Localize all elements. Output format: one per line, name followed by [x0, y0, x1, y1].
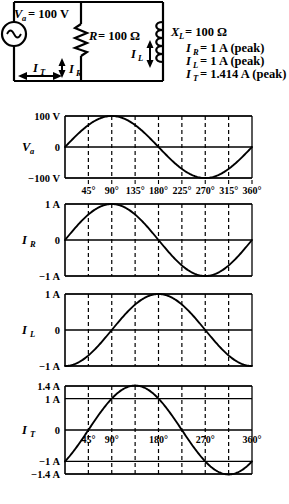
y-tick-label: 1 A: [45, 199, 60, 210]
plot-panel-i-r: 1 A0−1 AIR: [21, 199, 252, 282]
source-label-value: = 100 V: [28, 7, 69, 21]
x-tick-label: 45°: [81, 434, 95, 445]
legend-list: I R = 1 A (peak) I L = 1 A (peak) I T = …: [185, 41, 286, 83]
panel-y-label-var: I: [21, 233, 28, 247]
y-tick-label: −1 A: [39, 271, 60, 282]
panel-y-label-sub: a: [30, 146, 35, 156]
current-l-arrow: [147, 40, 154, 68]
panel-y-label-sub: R: [29, 239, 36, 249]
y-tick-label: −100 V: [28, 173, 60, 184]
current-total-label-var: I: [32, 61, 39, 75]
y-tick-label: −1 A: [39, 456, 60, 467]
ac-source-icon: [2, 22, 26, 46]
source-label: V a = 100 V: [14, 7, 69, 23]
x-tick-label: 360°: [243, 434, 262, 445]
current-total-label-sub: T: [40, 67, 46, 77]
legend-text: = 1 A (peak): [200, 41, 264, 55]
legend-text: = 1 A (peak): [200, 54, 264, 68]
y-tick-label: −1.4 A: [31, 469, 60, 480]
y-tick-label: 0: [55, 325, 60, 336]
inductor-label: X L = 100 Ω: [170, 25, 227, 41]
legend-text: = 1.414 A (peak): [200, 67, 286, 81]
legend-sub: R: [192, 47, 199, 57]
panel-y-label: IR: [21, 233, 36, 249]
circuit-diagram: V a = 100 V R = 100 Ω X L = 100 Ω I T I …: [0, 0, 289, 104]
resistor-label-var: R: [88, 29, 97, 43]
waveform-plots: 100 V0−100 VVa45°90°135°180°225°270°315°…: [0, 104, 289, 504]
legend-var: I: [185, 41, 192, 55]
legend-item: I T = 1.414 A (peak): [185, 67, 286, 83]
y-tick-label: 100 V: [34, 111, 60, 122]
y-tick-label: 0: [55, 235, 60, 246]
x-tick-label: 45°: [81, 185, 95, 196]
x-tick-label: 270°: [196, 185, 215, 196]
x-tick-label: 135°: [126, 185, 145, 196]
panel-y-label: IT: [21, 423, 36, 439]
panel-y-label-var: I: [21, 323, 28, 337]
current-r-label-var: I: [68, 62, 75, 76]
inductor-label-value: = 100 Ω: [185, 25, 227, 39]
panel-y-label-var: I: [21, 423, 28, 437]
legend-var: I: [185, 67, 192, 81]
x-tick-label: 90°: [105, 434, 119, 445]
y-tick-label: 0: [55, 425, 60, 436]
inductor-label-sub: L: [178, 31, 184, 41]
y-tick-label: 1.4 A: [37, 381, 60, 392]
y-tick-label: 1 A: [45, 289, 60, 300]
resistor-label-value: = 100 Ω: [98, 29, 140, 43]
legend-var: I: [185, 54, 192, 68]
legend-sub: T: [193, 73, 199, 83]
panel-y-label-sub: L: [29, 329, 35, 339]
x-tick-label: 270°: [196, 434, 215, 445]
panel-y-label: Va: [22, 140, 35, 156]
current-l-label-sub: L: [137, 53, 143, 63]
plot-panel-v-a: 100 V0−100 VVa45°90°135°180°225°270°315°…: [22, 111, 262, 196]
resistor-icon: [75, 24, 87, 56]
legend-sub: L: [192, 60, 198, 70]
current-l-label-var: I: [130, 47, 137, 61]
panel-y-label: IL: [21, 323, 35, 339]
current-r-label-sub: R: [75, 68, 82, 78]
x-tick-label: 180°: [149, 185, 168, 196]
x-tick-label: 180°: [149, 434, 168, 445]
y-tick-label: −1 A: [39, 361, 60, 372]
source-label-sub: a: [22, 13, 27, 23]
x-tick-label: 315°: [219, 185, 238, 196]
x-tick-label: 360°: [243, 185, 262, 196]
x-tick-label: 90°: [105, 185, 119, 196]
panel-y-label-sub: T: [30, 429, 36, 439]
y-tick-label: 0: [55, 142, 60, 153]
y-tick-label: 1 A: [45, 394, 60, 405]
plot-panel-i-l: 1 A0−1 AIL: [21, 289, 252, 372]
plot-panel-i-t: 1.4 A1 A0−1 A−1.4 AIT45°90°180°270°360°: [21, 381, 262, 480]
resistor-label: R = 100 Ω: [88, 29, 140, 43]
current-l-label: I L: [130, 47, 143, 63]
current-total-label: I T: [32, 61, 46, 77]
x-tick-label: 225°: [172, 185, 191, 196]
